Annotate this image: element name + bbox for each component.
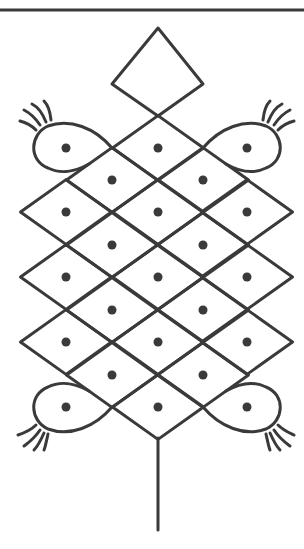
dot [199, 176, 208, 185]
dot [199, 306, 208, 315]
dot [108, 176, 117, 185]
dot [154, 208, 163, 217]
dot [199, 241, 208, 250]
dot [243, 144, 252, 153]
head-diamond [112, 28, 203, 116]
dot [243, 338, 252, 347]
dot [62, 403, 71, 412]
dot [154, 144, 163, 153]
dots-group [62, 144, 252, 412]
dot [108, 371, 117, 380]
dot [62, 144, 71, 153]
flipper-bottom-left [34, 384, 112, 432]
dot [154, 273, 163, 282]
dot [243, 208, 252, 217]
dot [243, 273, 252, 282]
dot [62, 273, 71, 282]
dot [108, 306, 117, 315]
flipper-top-left [34, 123, 112, 171]
dot [199, 371, 208, 380]
dot [243, 403, 252, 412]
dot [108, 241, 117, 250]
dot [62, 338, 71, 347]
flipper-top-right [203, 123, 280, 171]
figure-canvas [0, 0, 304, 549]
turtle-kolam-figure [0, 0, 304, 549]
dot [154, 338, 163, 347]
flipper-bottom-right [203, 384, 280, 432]
dot [154, 403, 163, 412]
dot [62, 208, 71, 217]
